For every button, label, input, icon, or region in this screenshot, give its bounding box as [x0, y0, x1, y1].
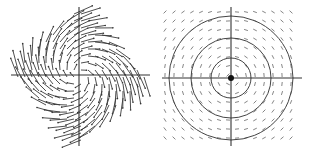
arrow-tip — [67, 37, 69, 39]
vector-arrow — [281, 46, 283, 49]
arrow-tip — [69, 109, 71, 111]
arrow-tip — [99, 126, 101, 128]
vector-arrow — [281, 55, 283, 59]
vector-arrow — [201, 82, 202, 86]
vector-arrow — [281, 37, 283, 40]
vector-arrow — [254, 64, 256, 68]
arrow-tip — [73, 127, 75, 129]
arrow-tip — [55, 130, 57, 132]
arrow-tip — [140, 103, 142, 105]
vector-arrow — [191, 119, 194, 122]
vector-arrow — [173, 20, 176, 23]
arrow-tip — [69, 30, 71, 32]
arrow-tip — [59, 114, 61, 116]
vector-arrow — [209, 64, 211, 67]
vector-arrow — [109, 42, 124, 48]
arrow-tip — [135, 94, 137, 96]
vector-arrow — [209, 56, 212, 59]
vector-arrow — [164, 109, 166, 113]
vector-arrow — [173, 118, 175, 121]
arrow-tip — [95, 65, 97, 67]
vector-arrow — [181, 11, 184, 13]
arrow-tip — [48, 66, 50, 68]
vector-arrow — [173, 28, 176, 31]
vector-arrow — [209, 91, 211, 94]
vector-arrow — [174, 64, 175, 68]
vector-arrow — [74, 6, 92, 14]
arrow-tip — [106, 17, 108, 19]
vector-arrow — [244, 110, 248, 112]
vector-arrow — [63, 71, 67, 77]
arrow-tip — [28, 78, 30, 80]
vector-arrow — [11, 58, 18, 77]
arrow-tip — [76, 64, 78, 66]
arrow-tip — [129, 58, 131, 60]
vector-arrow — [235, 56, 239, 57]
vector-arrow — [164, 28, 166, 31]
vector-arrow — [67, 83, 74, 84]
vector-arrow — [253, 128, 257, 130]
arrow-tip — [57, 122, 59, 124]
arrow-tip — [42, 82, 44, 84]
vector-arrow — [183, 64, 184, 68]
vector-arrow — [290, 127, 293, 130]
arrow-tip — [73, 47, 75, 49]
arrow-tip — [32, 37, 34, 39]
vector-arrow — [208, 137, 212, 138]
arrow-tip — [107, 78, 109, 80]
vector-arrow — [217, 47, 221, 48]
arrow-tip — [12, 50, 14, 52]
vector-arrow — [199, 11, 203, 13]
arrow-tip — [44, 109, 46, 111]
vector-arrow — [81, 62, 88, 63]
arrow-tip — [42, 31, 44, 33]
arrow-tip — [33, 88, 35, 90]
arrow-tip — [123, 48, 125, 50]
vector-arrow — [95, 70, 100, 77]
arrow-tip — [96, 109, 98, 111]
arrow-tip — [61, 106, 63, 108]
vector-arrow — [208, 119, 212, 121]
vector-arrow — [281, 118, 284, 121]
arrow-tip — [67, 62, 69, 64]
vector-arrow — [262, 137, 266, 139]
arrow-tip — [87, 61, 89, 63]
arrow-tip — [130, 109, 132, 111]
arrow-tip — [122, 82, 124, 84]
vector-arrow — [262, 38, 265, 41]
arrow-tip — [81, 50, 83, 52]
vector-arrow — [280, 11, 283, 13]
vector-arrow — [235, 92, 239, 93]
arrow-tip — [40, 64, 42, 66]
arrow-tip — [30, 45, 32, 47]
vector-arrow — [82, 91, 88, 98]
arrow-tip — [73, 94, 75, 96]
vector-arrow — [71, 98, 81, 102]
vector-arrow — [199, 29, 202, 31]
vector-arrow — [281, 29, 284, 32]
arrow-tip — [70, 54, 72, 56]
vector-arrow — [130, 91, 131, 110]
arrow-tip — [91, 45, 93, 47]
arrow-tip — [46, 101, 48, 103]
arrow-tip — [118, 37, 120, 39]
vector-arrow — [48, 94, 60, 98]
arrow-tip — [48, 41, 50, 43]
arrow-tip — [101, 40, 103, 42]
arrow-tip — [63, 132, 65, 134]
vector-arrow — [199, 137, 203, 139]
arrow-tip — [58, 35, 60, 37]
vector-arrow — [217, 110, 221, 111]
vector-arrow — [173, 109, 175, 112]
vector-arrow — [290, 118, 292, 121]
vector-arrow — [263, 91, 265, 95]
vector-arrow — [290, 100, 291, 104]
vector-arrow — [280, 137, 283, 140]
arrow-tip — [121, 56, 123, 58]
vector-arrow — [272, 91, 273, 95]
arrow-tip — [49, 119, 51, 121]
arrow-tip — [91, 12, 93, 14]
vector-arrow — [190, 11, 193, 13]
arrow-tip — [84, 90, 86, 92]
arrow-tip — [88, 83, 90, 85]
